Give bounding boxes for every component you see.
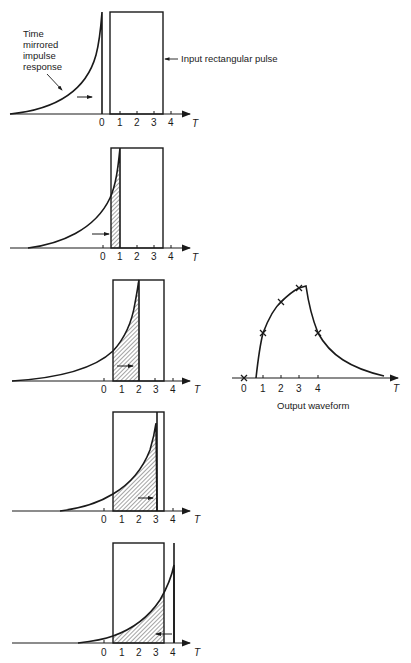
tick-label-2: 2 [278,383,284,394]
tick-label-0: 0 [101,647,107,658]
panel-1: 0 1 2 3 4 T Time mirrored impulse respon… [10,12,278,129]
panel-2: 0 1 2 3 4 T [10,148,199,263]
tick-label-3: 3 [153,647,159,658]
tick-label-0: 0 [99,117,105,128]
tick-label-3: 3 [151,117,157,128]
axis-label-t: T [393,383,400,394]
panel-5: 0 1 2 3 4 T [12,543,201,658]
tick-label-2: 2 [136,514,142,525]
overlap-area [111,160,120,248]
axis-label-t: T [194,514,201,525]
tick-label-4: 4 [170,647,176,658]
tick-label-0: 0 [101,514,107,525]
tick-label-3: 3 [296,383,302,394]
axis-label-t: T [192,118,199,129]
tick-label-0: 0 [100,251,106,262]
pulse-label: Input rectangular pulse [181,53,278,64]
tick-label-2: 2 [136,647,142,658]
axis-label-t: T [194,384,201,395]
axis-label-t: T [194,647,201,658]
tick-label-4: 4 [168,117,174,128]
tick-label-1: 1 [260,383,266,394]
tick-label-2: 2 [134,251,140,262]
tick-label-4: 4 [170,514,176,525]
output-curve [256,286,384,378]
tick-label-4: 4 [168,251,174,262]
axis-label-t: T [192,252,199,263]
impulse-response-curve [28,148,120,248]
tick-label-3: 3 [151,251,157,262]
convolution-diagram: 0 1 2 3 4 T Time mirrored impulse respon… [0,0,411,663]
tick-label-1: 1 [119,647,125,658]
impulse-pointer-arrow [47,74,62,90]
impulse-label-line-3: impulse [23,50,56,61]
impulse-label-line-4: response [23,61,62,72]
tick-label-4: 4 [170,384,176,395]
tick-label-3: 3 [153,384,159,395]
tick-label-1: 1 [117,251,123,262]
tick-label-0: 0 [101,384,107,395]
panel-4: 0 1 2 3 4 T [12,412,201,525]
overlap-area [113,593,164,643]
impulse-label-line-1: Time [23,28,44,39]
tick-label-0: 0 [241,383,247,394]
tick-label-3: 3 [153,514,159,525]
impulse-label-line-2: mirrored [23,39,58,50]
tick-label-2: 2 [134,117,140,128]
tick-label-2: 2 [136,384,142,395]
output-caption: Output waveform [277,400,349,411]
output-waveform-panel: 0 1 2 3 4 T Output waveform [232,285,400,411]
tick-label-1: 1 [117,117,123,128]
tick-label-1: 1 [119,514,125,525]
input-rectangular-pulse [110,12,163,114]
tick-label-1: 1 [119,384,125,395]
marker-t2 [278,299,284,305]
panel-3: 0 1 2 3 4 T [12,280,201,395]
tick-label-4: 4 [315,383,321,394]
